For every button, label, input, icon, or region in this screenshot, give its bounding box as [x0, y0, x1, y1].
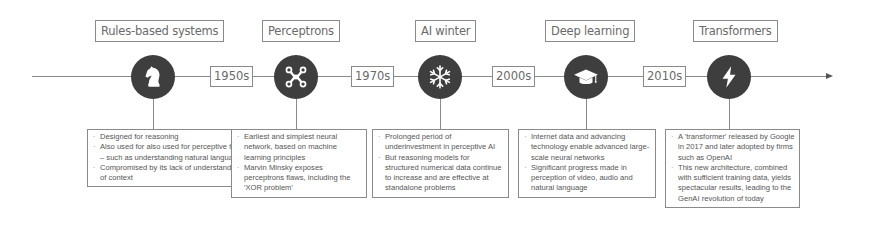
connector-line: [729, 99, 730, 129]
bullet-item: Marvin Minsky exposes perceptrons flaws,…: [236, 163, 362, 194]
stage-node-perceptrons: [274, 55, 318, 99]
stage-title-transformers: Transformers: [693, 20, 778, 42]
bullet-item: But reasoning models for structured nume…: [377, 153, 504, 194]
arrow-head-icon: [826, 73, 833, 79]
bullet-item: A 'transformer' released by Google in 20…: [670, 132, 795, 163]
stage-node-ai-winter: [418, 55, 462, 99]
stage-description-ai-winter: Prolonged period of underinvestment in p…: [372, 129, 509, 198]
stage-title-ai-winter: AI winter: [415, 20, 476, 42]
stage-description-rules-based-systems: Designed for reasoning Also used for als…: [87, 129, 253, 187]
stage-description-transformers: A 'transformer' released by Google in 20…: [665, 129, 800, 208]
connector-line: [296, 99, 297, 129]
bullet-item: Designed for reasoning: [92, 132, 248, 142]
stage-node-deep-learning: [564, 55, 608, 99]
stage-description-deep-learning: Internet data and advancing technology e…: [518, 129, 656, 198]
bullet-item: Earliest and simplest neural network, ba…: [236, 132, 362, 163]
connector-line: [153, 99, 154, 129]
stage-node-rules-based-systems: [131, 55, 175, 99]
bullet-item: Compromised by its lack of understanding…: [92, 163, 248, 184]
stage-title-rules-based-systems: Rules-based systems: [95, 20, 224, 42]
graduation-cap-icon: [573, 64, 599, 90]
bullet-item: This new architecture, combined with suf…: [670, 163, 795, 204]
chess-knight-icon: [140, 64, 166, 90]
era-label-2010s: 2010s: [643, 66, 686, 87]
bullet-item: Prolonged period of underinvestment in p…: [377, 132, 504, 153]
bullet-item: Also used for also used for perceptive t…: [92, 142, 248, 163]
stage-node-transformers: [707, 55, 751, 99]
snowflake-icon: [427, 64, 453, 90]
era-label-2000s: 2000s: [492, 66, 535, 87]
connector-line: [440, 99, 441, 129]
era-label-1970s: 1970s: [351, 66, 394, 87]
stage-title-perceptrons: Perceptrons: [262, 20, 340, 42]
stage-description-perceptrons: Earliest and simplest neural network, ba…: [231, 129, 367, 198]
bullet-item: Internet data and advancing technology e…: [523, 132, 651, 163]
lightning-bolt-icon: [716, 64, 742, 90]
connector-line: [586, 99, 587, 129]
bullet-item: Significant progress made in perception …: [523, 163, 651, 194]
era-label-1950s: 1950s: [210, 66, 253, 87]
neural-network-icon: [283, 64, 309, 90]
stage-title-deep-learning: Deep learning: [545, 20, 635, 42]
